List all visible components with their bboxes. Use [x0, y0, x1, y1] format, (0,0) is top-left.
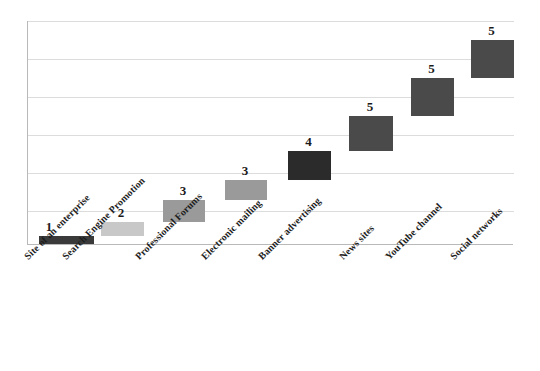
bar-value-label: 5 [470, 24, 513, 38]
gridline [28, 21, 514, 22]
bar-news-sites [349, 116, 393, 151]
bar-value-label: 5 [348, 100, 392, 114]
gridline [28, 173, 514, 174]
waterfall-chart: 1 2 3 3 4 5 5 5 Site of an enterprise Se… [0, 0, 540, 371]
bar-social-networks [471, 40, 514, 78]
bar-banner-advertising [288, 151, 331, 180]
bar-value-label: 4 [287, 135, 330, 149]
bar-value-label: 5 [410, 62, 453, 76]
bar-value-label: 3 [224, 164, 266, 178]
gridline [28, 135, 514, 136]
bar-electronic-mailing [225, 180, 267, 200]
bar-youtube-channel [411, 78, 454, 116]
gridline [28, 59, 514, 60]
bar-search-engine-promotion [101, 222, 144, 236]
